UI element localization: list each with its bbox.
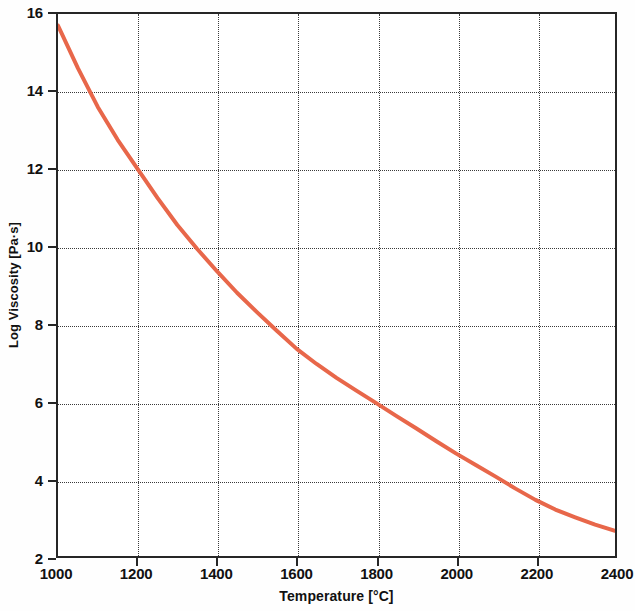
data-curve [58, 14, 615, 556]
x-tick-mark [457, 558, 459, 566]
y-tick-mark [48, 324, 56, 326]
y-tick-mark [48, 12, 56, 14]
y-tick-mark [48, 246, 56, 248]
x-tick-label: 1200 [120, 566, 153, 581]
y-tick-label: 4 [35, 473, 43, 488]
x-tick-label: 1400 [200, 566, 233, 581]
x-tick-label: 1000 [40, 566, 73, 581]
x-tick-mark [377, 558, 379, 566]
y-tick-mark [48, 480, 56, 482]
x-axis-title: Temperature [°C] [56, 588, 617, 604]
y-tick-label: 14 [27, 83, 43, 98]
y-tick-label: 12 [27, 161, 43, 176]
x-tick-label: 2400 [601, 566, 634, 581]
x-tick-label: 2200 [521, 566, 554, 581]
y-tick-label: 10 [27, 239, 43, 254]
x-tick-label: 1800 [360, 566, 393, 581]
x-tick-mark [216, 558, 218, 566]
y-tick-label: 2 [35, 551, 43, 566]
y-tick-label: 16 [27, 5, 43, 20]
y-axis-title: Log Viscosity [Pa·s] [2, 12, 24, 558]
y-tick-mark [48, 90, 56, 92]
y-tick-mark [48, 402, 56, 404]
plot-area [56, 12, 617, 558]
x-tick-label: 2000 [440, 566, 473, 581]
y-tick-label: 8 [35, 317, 43, 332]
x-tick-mark [136, 558, 138, 566]
x-tick-label: 1600 [280, 566, 313, 581]
y-tick-mark [48, 558, 56, 560]
x-tick-mark [537, 558, 539, 566]
x-tick-mark [296, 558, 298, 566]
y-tick-label: 6 [35, 395, 43, 410]
y-tick-mark [48, 168, 56, 170]
chart-figure: 246810121416 100012001400160018002000220… [0, 0, 635, 611]
